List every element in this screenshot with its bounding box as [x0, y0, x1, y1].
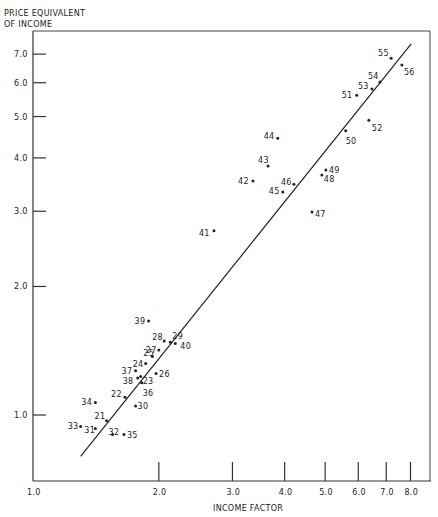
data-point [79, 425, 82, 428]
x-tick-label: 1.0 [27, 488, 41, 497]
x-tick-label: 8.0 [404, 488, 418, 497]
y-tick-label: 5.0 [14, 113, 28, 122]
x-ticks: 1.02.03.04.05.06.07.08.0 [27, 462, 418, 497]
data-point [140, 381, 143, 384]
data-point [378, 81, 381, 84]
data-point-label: 48 [324, 175, 335, 184]
data-point-label: 40 [180, 342, 191, 351]
y-ticks: 1.02.03.04.05.06.07.0 [14, 50, 46, 420]
data-point-label: 56 [404, 68, 415, 77]
data-point-label: 41 [199, 229, 210, 238]
data-points: 2122232425262728293031323334353637383940… [68, 49, 415, 439]
x-tick-label: 7.0 [380, 488, 394, 497]
data-point [367, 119, 370, 122]
data-point-label: 49 [329, 166, 340, 175]
data-point-label: 24 [133, 360, 144, 369]
data-point [400, 64, 403, 67]
data-point-label: 27 [146, 346, 157, 355]
data-point-label: 53 [358, 82, 369, 91]
plot-frame [33, 31, 430, 481]
data-point [292, 183, 295, 186]
data-point-label: 21 [95, 412, 106, 421]
y-tick-label: 7.0 [14, 50, 28, 59]
data-point [281, 190, 284, 193]
data-point [136, 377, 139, 380]
data-point-label: 47 [315, 210, 326, 219]
x-tick-label: 5.0 [319, 488, 333, 497]
y-tick-label: 3.0 [14, 207, 28, 216]
y-axis-label-line-1: PRICE EQUIVALENT [4, 9, 85, 18]
data-point-label: 23 [143, 377, 154, 386]
regression-line [81, 44, 412, 457]
data-point [324, 168, 327, 171]
data-point-label: 38 [123, 377, 134, 386]
x-tick-label: 4.0 [279, 488, 293, 497]
data-point-label: 28 [152, 333, 163, 342]
data-point-label: 30 [138, 402, 149, 411]
data-point-label: 52 [372, 124, 383, 133]
data-point [252, 180, 255, 183]
data-point-label: 34 [81, 398, 92, 407]
data-point-label: 35 [127, 431, 138, 440]
data-point [94, 401, 97, 404]
data-point [370, 88, 373, 91]
data-point-label: 51 [342, 91, 353, 100]
data-point-label: 39 [135, 317, 146, 326]
data-point-label: 26 [159, 370, 170, 379]
data-point [134, 369, 137, 372]
data-point [212, 229, 215, 232]
data-point [390, 57, 393, 60]
data-point [155, 372, 158, 375]
x-tick-label: 2.0 [153, 488, 167, 497]
data-point [105, 419, 108, 422]
data-point-label: 46 [281, 178, 292, 187]
data-point-label: 29 [172, 332, 183, 341]
y-tick-label: 1.0 [14, 411, 28, 420]
scatter-chart: PRICE EQUIVALENT OF INCOME 1.02.03.04.05… [0, 0, 438, 517]
data-point-label: 37 [122, 367, 133, 376]
data-point-label: 33 [68, 422, 79, 431]
y-tick-label: 2.0 [14, 282, 28, 291]
data-point-label: 50 [346, 137, 357, 146]
x-axis-label: INCOME FACTOR [213, 504, 283, 513]
data-point-label: 42 [238, 177, 249, 186]
x-tick-label: 6.0 [352, 488, 366, 497]
data-point [122, 433, 125, 436]
data-point [174, 342, 177, 345]
data-point [355, 94, 358, 97]
y-axis-label-line-2: OF INCOME [4, 20, 52, 29]
data-point [124, 396, 127, 399]
data-point [157, 348, 160, 351]
data-point-label: 54 [368, 72, 379, 81]
y-tick-label: 6.0 [14, 79, 28, 88]
data-point-label: 55 [378, 49, 389, 58]
y-tick-label: 4.0 [14, 154, 28, 163]
data-point-label: 45 [269, 187, 280, 196]
data-point [276, 137, 279, 140]
data-point-label: 36 [143, 389, 154, 398]
data-point [163, 340, 166, 343]
data-point-label: 44 [264, 132, 275, 141]
data-point [147, 320, 150, 323]
data-point [144, 362, 147, 365]
data-point-label: 22 [111, 390, 122, 399]
data-point [310, 210, 313, 213]
x-tick-label: 3.0 [226, 488, 240, 497]
data-point-label: 31 [84, 426, 95, 435]
data-point-label: 43 [258, 156, 269, 165]
data-point-label: 32 [109, 428, 120, 437]
data-point [344, 129, 347, 132]
